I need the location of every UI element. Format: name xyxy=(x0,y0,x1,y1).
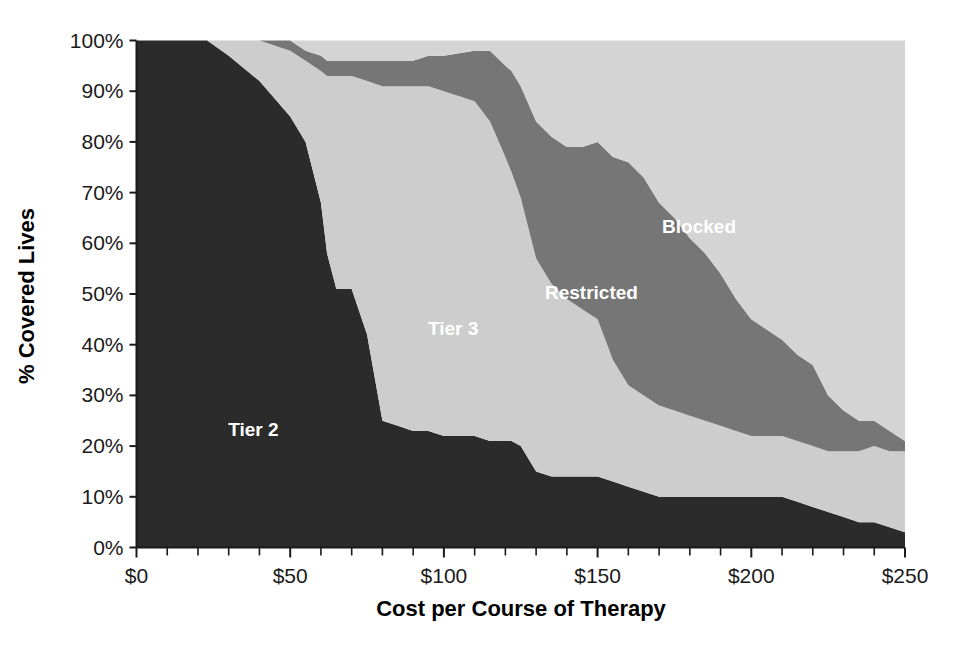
y-tick-label: 70% xyxy=(81,181,123,204)
y-tick-label: 30% xyxy=(81,383,123,406)
y-tick-label: 20% xyxy=(81,434,123,457)
chart-canvas: $0$50$100$150$200$250 0%10%20%30%40%50%6… xyxy=(0,0,957,654)
y-tick-label: 90% xyxy=(81,79,123,102)
x-tick-label: $200 xyxy=(728,564,775,587)
y-axis-title: % Covered Lives xyxy=(14,208,39,384)
stacked-area-chart: $0$50$100$150$200$250 0%10%20%30%40%50%6… xyxy=(0,0,957,654)
series-annotation-tier-3: Tier 3 xyxy=(428,318,478,339)
y-tick-label: 80% xyxy=(81,130,123,153)
y-tick-label: 100% xyxy=(70,29,124,52)
y-tick-label: 50% xyxy=(81,282,123,305)
x-tick-label: $250 xyxy=(882,564,929,587)
y-tick-label: 40% xyxy=(81,333,123,356)
series-annotation-blocked: Blocked xyxy=(662,216,736,237)
x-tick-label: $0 xyxy=(125,564,148,587)
y-tick-label: 10% xyxy=(81,485,123,508)
y-tick-label: 0% xyxy=(93,536,123,559)
x-axis-title: Cost per Course of Therapy xyxy=(376,596,666,621)
series-annotation-restricted: Restricted xyxy=(545,282,638,303)
x-tick-label: $50 xyxy=(273,564,308,587)
series-annotation-tier-2: Tier 2 xyxy=(228,419,278,440)
x-tick-label: $100 xyxy=(421,564,468,587)
x-tick-label: $150 xyxy=(574,564,621,587)
y-tick-label: 60% xyxy=(81,231,123,254)
area-series-group xyxy=(137,41,906,548)
